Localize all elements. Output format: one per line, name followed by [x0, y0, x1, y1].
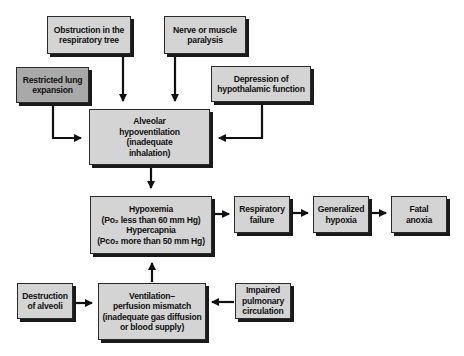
- node-label-line: expansion: [32, 85, 73, 96]
- arrow-restricted-to-alveolar: [53, 106, 81, 138]
- node-label-line: hypothalamic function: [217, 84, 304, 95]
- node-label-line: of alveoli: [27, 301, 62, 312]
- node-label-line: or blood supply): [120, 322, 184, 333]
- node-alveolar-hypoventilation: Alveolar hypoventilation (inadequate inh…: [89, 109, 210, 165]
- respiratory-failure-flowchart: Obstruction in the respiratory tree Nerv…: [0, 0, 464, 356]
- node-label-line: Nerve or muscle: [173, 25, 237, 36]
- node-label-line: Destruction: [22, 291, 68, 302]
- node-label-line: Generalized: [318, 204, 365, 215]
- node-label-line: hypoventilation: [119, 127, 180, 138]
- node-hypoxemia-hypercapnia: Hypoxemia (Po₂ less than 60 mm Hg) Hyper…: [90, 196, 212, 254]
- node-obstruction: Obstruction in the respiratory tree: [47, 16, 131, 54]
- node-label-line: circulation: [242, 306, 283, 317]
- node-label-line: pulmonary: [242, 296, 284, 307]
- node-label-line: Hypercapnia: [126, 225, 175, 236]
- node-impaired-pulmonary-circulation: Impaired pulmonary circulation: [235, 283, 291, 319]
- node-label-line: Impaired: [246, 285, 280, 296]
- node-nerve-muscle-paralysis: Nerve or muscle paralysis: [164, 16, 246, 54]
- node-ventilation-perfusion-mismatch: Ventilation– perfusion mismatch (inadequ…: [98, 283, 206, 340]
- node-label-line: inhalation): [129, 148, 170, 159]
- node-depression-hypothalamic: Depression of hypothalamic function: [211, 66, 311, 102]
- node-destruction-of-alveoli: Destruction of alveoli: [17, 283, 73, 319]
- arrow-depression-to-alveolar: [219, 104, 262, 138]
- node-label-line: anoxia: [406, 215, 432, 226]
- node-label-line: Obstruction in the: [54, 25, 124, 36]
- node-label-line: (inadequate gas diffusion: [102, 312, 201, 323]
- node-label-line: paralysis: [187, 35, 222, 46]
- node-label-line: Respiratory: [239, 204, 285, 215]
- node-respiratory-failure: Respiratory failure: [234, 196, 290, 233]
- node-fatal-anoxia: Fatal anoxia: [391, 196, 447, 233]
- node-label-line: Hypoxemia: [129, 204, 173, 215]
- node-label-line: Depression of: [234, 74, 289, 85]
- node-label-line: failure: [250, 215, 274, 226]
- node-label-line: (Pco₂ more than 50 mm Hg): [97, 236, 205, 247]
- node-label-line: hypoxia: [325, 215, 356, 226]
- node-label-line: (Po₂ less than 60 mm Hg): [102, 215, 201, 226]
- node-label-line: Ventilation–: [129, 291, 175, 302]
- node-label-line: (inadequate: [126, 137, 172, 148]
- node-label-line: Fatal: [409, 204, 428, 215]
- node-restricted-lung-expansion: Restricted lung expansion: [16, 67, 89, 103]
- node-label-line: respiratory tree: [59, 35, 119, 46]
- node-label-line: Restricted lung: [23, 75, 83, 86]
- node-label-line: perfusion mismatch: [113, 301, 191, 312]
- node-generalized-hypoxia: Generalized hypoxia: [313, 196, 369, 233]
- node-label-line: Alveolar: [133, 116, 165, 127]
